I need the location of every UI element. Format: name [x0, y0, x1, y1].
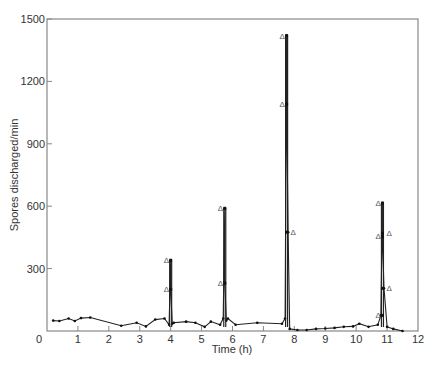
peak-point — [285, 103, 288, 106]
peak-point — [169, 259, 172, 262]
x-tick-label: 5 — [199, 333, 205, 345]
x-tick-label: 12 — [412, 333, 424, 345]
data-point — [343, 326, 346, 329]
y-tick-label: 900 — [27, 138, 45, 150]
data-series — [52, 34, 404, 332]
peak-point — [381, 287, 384, 290]
data-point — [52, 319, 55, 322]
x-tick-label: 10 — [350, 333, 362, 345]
data-point — [377, 323, 380, 326]
x-tick-label: 4 — [168, 333, 174, 345]
triangle-marker-icon: Δ — [386, 284, 392, 293]
triangle-marker-icon: Δ — [218, 279, 224, 288]
peak-point — [285, 231, 288, 234]
triangle-marker-icon: Δ — [375, 199, 381, 208]
x-tick-label: 8 — [291, 333, 297, 345]
triangle-marker-icon: Δ — [218, 204, 224, 213]
data-point — [352, 325, 355, 328]
peak-point — [381, 202, 384, 205]
data-point — [386, 326, 389, 329]
triangle-marker-icon: Δ — [375, 232, 381, 241]
x-tick-label: 11 — [381, 333, 392, 345]
data-point — [145, 325, 148, 328]
x-axis-title: Time (h) — [212, 343, 253, 355]
triangle-marker-icon: Δ — [164, 285, 170, 294]
data-point — [367, 326, 370, 329]
data-point — [358, 322, 361, 325]
data-point — [288, 328, 291, 331]
data-point — [154, 318, 157, 321]
data-point — [256, 321, 259, 324]
data-point — [281, 322, 284, 325]
x-tick-label: 1 — [75, 333, 81, 345]
peak-point — [285, 34, 288, 37]
y-tick-label: 1200 — [21, 75, 45, 87]
peak-point — [223, 207, 226, 210]
data-point — [219, 323, 222, 326]
data-point — [135, 321, 138, 324]
data-point — [74, 320, 77, 323]
data-point — [194, 321, 197, 324]
data-point — [185, 320, 188, 323]
triangle-marker-icon: Δ — [280, 100, 286, 109]
data-point — [305, 329, 308, 332]
series-line — [53, 36, 402, 331]
data-point — [210, 320, 213, 323]
plot-axes — [47, 19, 418, 331]
peak-point — [169, 288, 172, 291]
data-point — [333, 327, 336, 330]
triangle-marker-icon: Δ — [386, 229, 392, 238]
x-tick-label: 7 — [260, 333, 266, 345]
triangle-marker-icon: Δ — [280, 32, 286, 41]
data-point — [401, 330, 404, 333]
x-tick-label: 2 — [106, 333, 112, 345]
data-point — [67, 317, 70, 320]
data-point — [392, 328, 395, 331]
data-point — [163, 317, 166, 320]
data-point — [120, 325, 123, 328]
plot-frame — [47, 19, 418, 331]
x-tick-label: 9 — [322, 333, 328, 345]
y-axis-title: Spores discharged/min — [8, 119, 20, 232]
data-point — [324, 327, 327, 330]
spore-discharge-chart: 030060090012001500 123456789101112 ΔΔΔΔΔ… — [0, 0, 438, 366]
triangle-marker-icon: Δ — [375, 311, 381, 320]
data-point — [315, 328, 318, 331]
triangle-markers: ΔΔΔΔΔΔΔΔΔΔΔΔ — [164, 32, 393, 327]
y-tick-label: 0 — [36, 333, 42, 345]
y-tick-label: 1500 — [21, 13, 45, 25]
peak-point — [381, 232, 384, 235]
peak-point — [223, 282, 226, 285]
data-point — [89, 316, 92, 319]
peak-point — [381, 314, 384, 317]
y-tick-label: 300 — [27, 263, 45, 275]
data-point — [58, 320, 61, 323]
data-point — [227, 317, 230, 320]
y-tick-label: 600 — [27, 200, 45, 212]
peak-point — [381, 235, 384, 238]
data-point — [296, 329, 299, 332]
triangle-marker-icon: Δ — [164, 256, 170, 265]
data-point — [234, 323, 237, 326]
data-point — [172, 321, 175, 324]
data-point — [80, 317, 83, 320]
triangle-marker-icon: Δ — [291, 228, 297, 237]
data-point — [203, 326, 206, 329]
x-tick-label: 3 — [137, 333, 143, 345]
